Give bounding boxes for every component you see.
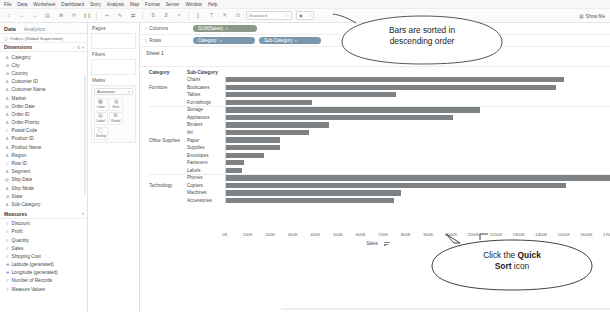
- dimensions-actions[interactable]: ⌕ ⇅ ▾: [73, 45, 84, 50]
- subcategory-label[interactable]: Envelopes: [187, 153, 208, 158]
- pill-sum-sales[interactable]: SUM(Sales) ▾: [193, 25, 257, 33]
- field-ship-mode[interactable]: AShip Mode: [0, 184, 87, 192]
- field-customer-name[interactable]: ACustomer Name: [0, 86, 87, 94]
- menu-item-analysis[interactable]: Analysis: [107, 2, 124, 7]
- measure-shipping-cost[interactable]: #Shipping Cost: [0, 252, 87, 260]
- measure-latitude[interactable]: ⊕Latitude (generated): [0, 261, 87, 269]
- bar-row[interactable]: Art: [140, 129, 610, 137]
- fit-dropdown[interactable]: Standard ▾: [246, 11, 292, 20]
- save-icon[interactable]: ▤: [43, 11, 52, 20]
- forward-icon[interactable]: →: [30, 11, 39, 20]
- bar-mark[interactable]: [225, 168, 242, 173]
- menu-item-dashboard[interactable]: Dashboard: [61, 2, 84, 7]
- clear-sheet-icon[interactable]: ✎: [115, 11, 124, 20]
- field-ship-date[interactable]: ▤Ship Date: [0, 176, 87, 184]
- field-order-date[interactable]: ▤Order Date: [0, 102, 87, 110]
- back-icon[interactable]: ←: [17, 11, 26, 20]
- bar-mark[interactable]: [225, 190, 401, 195]
- subcategory-label[interactable]: Labels: [187, 168, 201, 173]
- bar-row[interactable]: Storage: [140, 106, 610, 114]
- subcategory-label[interactable]: Appliances: [187, 115, 209, 120]
- bar-mark[interactable]: [225, 145, 280, 150]
- field-postal-code[interactable]: #Postal Code: [0, 127, 87, 135]
- worksheet-scrollbar[interactable]: [281, 308, 610, 311]
- datasource-item[interactable]: ◫ Orders (Global Superstore): [0, 34, 87, 43]
- subcategory-label[interactable]: Phones: [187, 175, 203, 180]
- bar-mark[interactable]: [225, 100, 312, 105]
- field-segment[interactable]: ASegment: [0, 168, 87, 176]
- undo-icon[interactable]: ↩: [102, 11, 111, 20]
- bar-row[interactable]: Binders: [140, 121, 610, 129]
- swap-rows-columns-icon[interactable]: ⇄: [128, 11, 137, 20]
- bar-mark[interactable]: [225, 175, 610, 180]
- bar-row[interactable]: Chairs: [140, 76, 610, 84]
- menu-item-server[interactable]: Server: [166, 2, 180, 7]
- field-product-id[interactable]: AProduct ID: [0, 135, 87, 143]
- bar-mark[interactable]: [225, 115, 453, 120]
- bar-mark[interactable]: [225, 137, 280, 142]
- subcategory-label[interactable]: Fasteners: [187, 160, 207, 165]
- subcategory-label[interactable]: Binders: [187, 122, 203, 127]
- bar-mark[interactable]: [225, 92, 396, 97]
- bar-mark[interactable]: [225, 198, 394, 203]
- bar-mark[interactable]: [225, 130, 309, 135]
- subcategory-label[interactable]: Paper: [187, 138, 199, 143]
- subcategory-label[interactable]: Machines: [187, 190, 207, 195]
- bar-mark[interactable]: [225, 107, 480, 112]
- measure-measure-values[interactable]: #Measure Values: [0, 285, 87, 293]
- pause-icon[interactable]: ❙❙: [82, 11, 91, 20]
- pages-shelf[interactable]: [91, 33, 136, 49]
- add-data-source-icon[interactable]: ⊞: [56, 11, 65, 20]
- filters-shelf[interactable]: [91, 59, 136, 75]
- bar-row[interactable]: Envelopes: [140, 151, 610, 159]
- subcategory-label[interactable]: Accessories: [187, 198, 212, 203]
- search-icon[interactable]: ⌕: [73, 45, 75, 50]
- data-pane-scrollbar[interactable]: [84, 75, 87, 195]
- bar-row[interactable]: Office SuppliesPaper: [140, 136, 610, 144]
- marks-button-size[interactable]: ◍ Size: [109, 98, 123, 111]
- field-category[interactable]: ACategory: [0, 53, 87, 61]
- subcategory-label[interactable]: Chairs: [187, 77, 200, 82]
- chevron-down-icon[interactable]: ▾: [82, 211, 84, 216]
- sort-ascending-icon[interactable]: ⇅: [148, 11, 157, 20]
- tableau-logo-icon[interactable]: ⌂: [4, 11, 13, 20]
- pill-sub-category[interactable]: Sub-Category ▾: [259, 37, 321, 45]
- field-city[interactable]: ⊕City: [0, 61, 87, 69]
- bar-row[interactable]: Phones: [140, 174, 610, 182]
- show-me-button[interactable]: ▦ Show Me: [579, 12, 605, 20]
- bar-row[interactable]: Machines: [140, 189, 610, 197]
- menu-item-help[interactable]: Help: [208, 2, 218, 7]
- bar-row[interactable]: Supplies: [140, 144, 610, 152]
- field-region[interactable]: ARegion: [0, 151, 87, 159]
- fix-axes-icon[interactable]: ⊡: [233, 11, 242, 20]
- group-members-icon[interactable]: ∑: [194, 11, 203, 20]
- bar-row[interactable]: Appliances: [140, 114, 610, 122]
- quick-sort-icon[interactable]: [384, 242, 390, 247]
- bar-mark[interactable]: [225, 183, 566, 188]
- measure-number-of-records[interactable]: #Number of Records: [0, 277, 87, 285]
- bar-mark[interactable]: [225, 122, 329, 127]
- fit-icon[interactable]: ⇱: [220, 11, 229, 20]
- field-product-name[interactable]: AProduct Name: [0, 143, 87, 151]
- category-label[interactable]: Office Supplies: [149, 138, 180, 143]
- field-country[interactable]: ⊕Country: [0, 69, 87, 77]
- menu-item-story[interactable]: Story: [90, 2, 101, 7]
- chevron-down-icon[interactable]: ▾: [82, 45, 84, 50]
- subcategory-label[interactable]: Art: [187, 130, 193, 135]
- field-market[interactable]: AMarket: [0, 94, 87, 102]
- measure-profit[interactable]: #Profit: [0, 228, 87, 236]
- highlight-icon[interactable]: ✧: [174, 11, 183, 20]
- marks-button-color[interactable]: ▦ Color: [94, 98, 108, 111]
- measure-discount[interactable]: #Discount: [0, 220, 87, 228]
- field-order-id[interactable]: AOrder ID: [0, 110, 87, 118]
- menu-item-format[interactable]: Format: [145, 2, 160, 7]
- marks-type-dropdown[interactable]: Automatic ▾: [94, 88, 133, 95]
- show-labels-icon[interactable]: T: [207, 11, 216, 20]
- bar-row[interactable]: Fasteners: [140, 159, 610, 167]
- field-row-id[interactable]: #Row ID: [0, 159, 87, 167]
- bar-mark[interactable]: [225, 85, 556, 90]
- measures-actions[interactable]: ▾: [82, 211, 84, 216]
- bar-row[interactable]: Tables: [140, 91, 610, 99]
- presentation-mode-dropdown[interactable]: ▣ ▾: [296, 11, 314, 20]
- menu-item-window[interactable]: Window: [185, 2, 201, 7]
